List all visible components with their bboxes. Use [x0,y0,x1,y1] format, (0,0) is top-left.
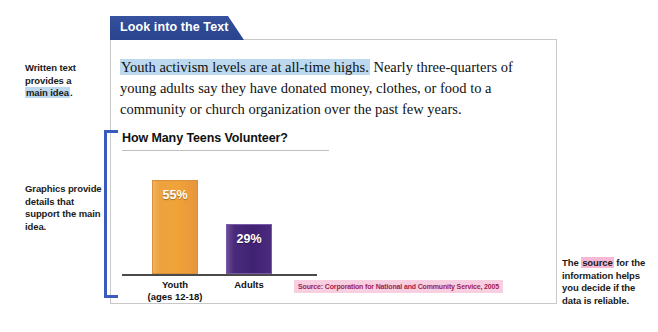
chart-title: How Many Teens Volunteer? [122,131,288,145]
chart-axis-line [122,274,317,276]
bar-group-youth: 55% [152,154,198,274]
chart-block: How Many Teens Volunteer? 55% 29% Youth … [104,128,534,303]
category-label-youth-line1: Youth [162,279,188,290]
annotation-written-highlight: main idea [25,87,70,98]
category-label-adults-line1: Adults [234,279,264,290]
annotation-written-line1: Written text [25,62,76,73]
category-label-youth-line2: (ages 12-18) [148,291,203,302]
annotation-source-highlight: source [581,257,614,268]
bar-youth: 55% [152,180,198,274]
bar-value-adults: 29% [227,232,271,246]
annotation-graphics: Graphics provide details that support th… [25,183,107,233]
tab-label: Look into the Text [120,20,229,34]
annotation-source-pre: The [562,257,579,268]
bracket-icon [104,130,118,298]
chart-source-note: Source: Corporation for National and Com… [294,280,503,293]
annotation-written-period: . [70,87,73,98]
annotation-source: The source for the information helps you… [562,257,654,307]
bar-value-youth: 55% [153,188,197,202]
body-paragraph: Youth activism levels are at all-time hi… [120,57,542,120]
bar-group-adults: 29% [226,154,272,274]
chart-title-divider [122,150,329,151]
annotation-written-text: Written text provides a main idea. [25,62,103,100]
tab-look-into-the-text[interactable]: Look into the Text [110,16,244,40]
annotation-written-line2: provides a [25,75,72,86]
body-highlighted-sentence: Youth activism levels are at all-time hi… [120,59,370,75]
bar-adults: 29% [226,224,272,274]
category-label-adults: Adults [204,279,294,291]
chart-plot-area: 55% 29% [122,154,337,274]
